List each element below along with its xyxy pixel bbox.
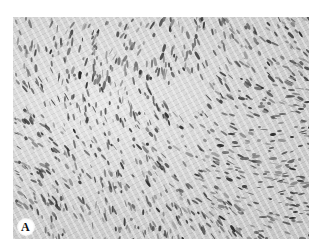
cell-nucleus xyxy=(146,149,150,153)
cell-nucleus xyxy=(50,67,54,74)
cell-nucleus xyxy=(289,208,293,210)
cell-nucleus xyxy=(192,46,194,51)
cell-nucleus xyxy=(212,49,217,57)
cell-nucleus xyxy=(274,67,277,70)
cell-nucleus xyxy=(269,212,273,215)
cell-nucleus xyxy=(205,94,212,101)
cell-nucleus xyxy=(190,67,192,73)
cell-nucleus xyxy=(78,45,81,53)
cell-nucleus xyxy=(204,112,209,118)
cell-nucleus xyxy=(222,42,225,51)
cell-nucleus xyxy=(63,122,65,126)
cell-nucleus xyxy=(284,231,292,236)
cell-nucleus xyxy=(23,125,26,129)
cell-nucleus xyxy=(290,177,294,180)
cell-nucleus xyxy=(35,64,38,72)
cell-nucleus xyxy=(294,164,297,166)
cell-nucleus xyxy=(94,200,96,208)
cell-nucleus xyxy=(298,145,303,148)
cell-nucleus xyxy=(84,149,91,156)
cell-nucleus xyxy=(132,44,136,49)
cell-nucleus xyxy=(18,29,22,36)
cell-nucleus xyxy=(288,186,296,188)
cell-nuclei-layer xyxy=(13,17,309,239)
cell-nucleus xyxy=(138,111,142,115)
cell-nucleus xyxy=(47,192,50,197)
cell-nucleus xyxy=(304,100,309,102)
cell-nucleus xyxy=(86,172,93,179)
cell-nucleus xyxy=(218,67,221,71)
cell-nucleus xyxy=(72,128,76,133)
cell-nucleus xyxy=(17,37,20,45)
cell-nucleus xyxy=(103,169,106,177)
cell-nucleus xyxy=(222,151,230,154)
cell-nucleus xyxy=(79,120,81,125)
cell-nucleus xyxy=(168,146,173,150)
cell-nucleus xyxy=(17,81,20,85)
cell-nucleus xyxy=(186,219,189,224)
cell-nucleus xyxy=(144,230,146,235)
cell-nucleus xyxy=(281,181,289,184)
cell-nucleus xyxy=(165,61,167,67)
cell-nucleus xyxy=(279,55,284,60)
cell-nucleus xyxy=(282,35,288,40)
cell-nucleus xyxy=(241,196,246,198)
cell-nucleus xyxy=(102,81,107,90)
cell-nucleus xyxy=(242,103,248,108)
cell-nucleus xyxy=(149,77,152,81)
cell-nucleus xyxy=(245,149,248,151)
cell-nucleus xyxy=(154,171,159,177)
cell-nucleus xyxy=(36,209,40,217)
cell-nucleus xyxy=(52,168,56,173)
cell-nucleus xyxy=(136,48,142,56)
cell-nucleus xyxy=(290,136,294,138)
cell-nucleus xyxy=(51,61,53,67)
cell-nucleus xyxy=(166,139,171,144)
cell-nucleus xyxy=(124,118,126,122)
cell-nucleus xyxy=(234,105,239,110)
cell-nucleus xyxy=(259,216,267,218)
cell-nucleus xyxy=(57,95,61,102)
cell-nucleus xyxy=(18,176,24,182)
cell-nucleus xyxy=(175,123,179,129)
cell-nucleus xyxy=(285,96,293,99)
cell-nucleus xyxy=(93,176,95,182)
cell-nucleus xyxy=(23,63,26,69)
cell-nucleus xyxy=(168,62,170,67)
cell-nucleus xyxy=(44,77,47,82)
cell-nucleus xyxy=(116,105,119,109)
cell-nucleus xyxy=(126,26,130,30)
cell-nucleus xyxy=(293,210,298,212)
cell-nucleus xyxy=(117,138,120,143)
cell-nucleus xyxy=(154,114,160,121)
cell-nucleus xyxy=(195,155,199,159)
cell-nucleus xyxy=(227,155,235,160)
cell-nucleus xyxy=(228,60,233,65)
cell-nucleus xyxy=(304,66,309,71)
cell-nucleus xyxy=(255,208,263,213)
cell-nucleus xyxy=(134,158,138,165)
cell-nucleus xyxy=(117,89,118,95)
cell-nucleus xyxy=(119,117,121,122)
cell-nucleus xyxy=(98,210,100,215)
cell-nucleus xyxy=(109,65,112,70)
cell-nucleus xyxy=(169,29,172,33)
cell-nucleus xyxy=(93,59,96,66)
cell-nucleus xyxy=(68,178,74,187)
cell-nucleus xyxy=(217,230,221,234)
cell-nucleus xyxy=(284,40,288,43)
cell-nucleus xyxy=(102,237,106,239)
cell-nucleus xyxy=(294,192,298,194)
cell-nucleus xyxy=(71,114,75,122)
cell-nucleus xyxy=(81,169,85,175)
cell-nucleus xyxy=(67,116,69,119)
cell-nucleus xyxy=(198,178,205,182)
cell-nucleus xyxy=(216,191,219,194)
cell-nucleus xyxy=(197,63,200,71)
cell-nucleus xyxy=(277,17,281,23)
cell-nucleus xyxy=(177,220,181,226)
cell-nucleus xyxy=(273,31,278,37)
cell-nucleus xyxy=(277,23,281,28)
cell-nucleus xyxy=(44,227,46,234)
cell-nucleus xyxy=(262,224,266,227)
